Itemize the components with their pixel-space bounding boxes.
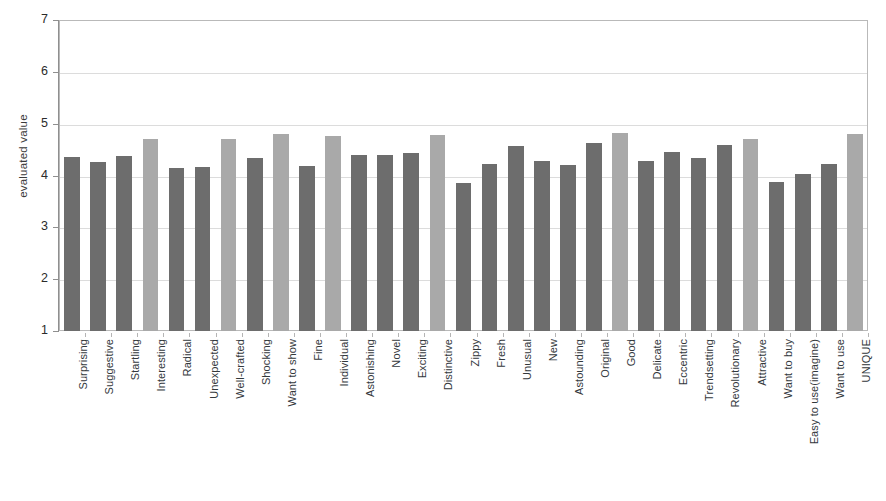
y-tick-label-4: 4: [8, 169, 48, 182]
bar: [717, 145, 733, 331]
x-tick-mark: [842, 333, 843, 337]
x-tick-mark: [216, 333, 217, 337]
x-axis-label: Delicate: [651, 339, 663, 380]
x-axis-label: Astonishing: [364, 339, 376, 397]
x-axis-label: Suggestive: [103, 339, 115, 394]
x-tick-mark: [816, 333, 817, 337]
x-axis-label: Exciting: [416, 339, 428, 378]
x-axis-label: UNIQUE: [860, 339, 872, 382]
x-tick-mark: [503, 333, 504, 337]
x-tick-mark: [398, 333, 399, 337]
x-axis-label: Distinctive: [442, 339, 454, 390]
x-axis-labels: SurprisingSuggestiveStartlingInteresting…: [59, 333, 868, 493]
x-tick-mark: [189, 333, 190, 337]
x-axis-label: Well-crafted: [234, 339, 246, 399]
bar: [821, 164, 837, 331]
bar: [221, 139, 237, 331]
x-axis-label: Surprising: [77, 339, 89, 390]
bar: [638, 161, 654, 331]
x-axis-label: Revolutionary: [729, 339, 741, 408]
x-tick-mark: [477, 333, 478, 337]
bars-layer: [59, 20, 868, 331]
x-axis-label: Want to show: [286, 339, 298, 406]
x-axis-label: New: [547, 339, 559, 361]
x-axis-label: Want to use: [834, 339, 846, 398]
bar: [377, 155, 393, 331]
x-tick-mark: [450, 333, 451, 337]
x-axis-label: Eccentric: [677, 339, 689, 385]
x-axis-label: Interesting: [155, 339, 167, 391]
y-tick-label-7: 7: [8, 13, 48, 26]
x-tick-mark: [555, 333, 556, 337]
x-axis-label: Individual: [338, 339, 350, 386]
bar: [456, 183, 472, 331]
bar-chart: evaluated value 1234567 SurprisingSugges…: [0, 0, 886, 501]
x-axis-label: Easy to use(imagine): [808, 339, 820, 444]
x-axis-label: Attractive: [756, 339, 768, 386]
x-axis-label: Trendsetting: [703, 339, 715, 401]
x-axis-label: Good: [625, 339, 637, 366]
y-tick-mark-1: [53, 331, 59, 332]
bar: [64, 157, 80, 331]
x-tick-mark: [711, 333, 712, 337]
x-tick-mark: [581, 333, 582, 337]
bar: [691, 158, 707, 331]
bar: [299, 166, 315, 331]
bar: [143, 139, 159, 331]
x-tick-mark: [242, 333, 243, 337]
bar: [482, 164, 498, 331]
x-tick-mark: [424, 333, 425, 337]
y-tick-label-3: 3: [8, 220, 48, 233]
bar: [769, 182, 785, 331]
bar: [743, 139, 759, 331]
y-tick-label-2: 2: [8, 272, 48, 285]
y-tick-label-6: 6: [8, 65, 48, 78]
y-tick-label-5: 5: [8, 117, 48, 130]
bar: [795, 174, 811, 331]
bar: [273, 134, 289, 331]
x-tick-mark: [372, 333, 373, 337]
x-axis-label: Fresh: [495, 339, 507, 368]
bar: [534, 161, 550, 331]
x-axis-label: Fine: [312, 339, 324, 361]
x-axis-label: Startling: [129, 339, 141, 380]
x-axis-label: Original: [599, 339, 611, 378]
x-tick-mark: [111, 333, 112, 337]
y-axis-title: evaluated value: [17, 86, 29, 226]
bar: [664, 152, 680, 331]
bar: [508, 146, 524, 331]
bar: [90, 162, 106, 331]
x-tick-mark: [633, 333, 634, 337]
bar: [586, 143, 602, 331]
x-axis-label: Zippy: [469, 339, 481, 366]
x-tick-mark: [268, 333, 269, 337]
bar: [195, 167, 211, 331]
x-tick-mark: [163, 333, 164, 337]
x-tick-mark: [320, 333, 321, 337]
x-axis-label: Unusual: [521, 339, 533, 380]
bar: [403, 153, 419, 331]
x-tick-mark: [346, 333, 347, 337]
bar: [560, 165, 576, 331]
x-tick-mark: [137, 333, 138, 337]
x-tick-mark: [529, 333, 530, 337]
x-tick-mark: [738, 333, 739, 337]
x-axis-label: Shocking: [260, 339, 272, 385]
x-tick-mark: [607, 333, 608, 337]
x-tick-mark: [790, 333, 791, 337]
x-tick-mark: [868, 333, 869, 337]
x-axis-label: Unexpected: [208, 339, 220, 399]
bar: [351, 155, 367, 331]
bar: [169, 168, 185, 331]
x-axis-label: Want to buy: [782, 339, 794, 398]
x-tick-mark: [85, 333, 86, 337]
x-axis-label: Astounding: [573, 339, 585, 395]
x-tick-mark: [685, 333, 686, 337]
x-tick-mark: [764, 333, 765, 337]
x-axis-label: Novel: [390, 339, 402, 368]
bar: [612, 133, 628, 331]
bar: [325, 136, 341, 331]
x-tick-mark: [659, 333, 660, 337]
bar: [430, 135, 446, 331]
bar: [847, 134, 863, 331]
